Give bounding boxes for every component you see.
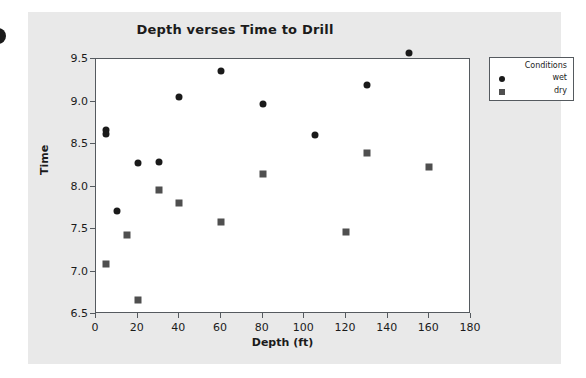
x-tick-label: 180 [460,321,481,334]
data-point-dry [363,150,370,157]
data-point-dry [155,186,162,193]
chart-title: Depth verses Time to Drill [0,22,470,37]
data-point-wet [155,158,162,165]
x-axis-label: Depth (ft) [95,336,470,349]
legend-label: dry [554,86,567,95]
square-marker-icon [499,89,505,95]
x-tick-label: 60 [213,321,227,334]
y-tick-label: 7.5 [0,222,88,235]
x-tick-label: 160 [418,321,439,334]
y-tick-label: 9.5 [0,52,88,65]
data-point-dry [176,199,183,206]
y-tick-label: 8.5 [0,137,88,150]
x-tick-mark [345,313,346,318]
x-tick-label: 120 [335,321,356,334]
x-tick-mark [262,313,263,318]
data-point-dry [426,163,433,170]
x-tick-label: 40 [171,321,185,334]
x-tick-mark [470,313,471,318]
data-point-wet [134,159,141,166]
y-tick-label: 7.0 [0,264,88,277]
x-tick-mark [220,313,221,318]
x-tick-mark [387,313,388,318]
data-point-dry [218,219,225,226]
legend-entry: wet [490,72,573,85]
x-tick-mark [303,313,304,318]
data-point-wet [176,94,183,101]
legend-title: Conditions [525,61,567,70]
data-point-dry [134,297,141,304]
data-point-wet [113,208,120,215]
circle-marker-icon [499,76,505,82]
x-tick-mark [178,313,179,318]
y-tick-label: 8.0 [0,179,88,192]
data-point-dry [259,170,266,177]
data-point-wet [103,130,110,137]
data-point-dry [343,228,350,235]
y-tick-label: 6.5 [0,307,88,320]
y-tick-label: 9.0 [0,94,88,107]
data-point-dry [124,231,131,238]
legend-label: wet [552,73,567,82]
data-point-wet [363,81,370,88]
x-tick-mark [95,313,96,318]
screenshot-root: Depth verses Time to Drill Time Depth (f… [0,0,586,378]
data-point-wet [259,101,266,108]
x-tick-label: 0 [92,321,99,334]
data-point-wet [218,67,225,74]
x-tick-mark [137,313,138,318]
x-tick-label: 140 [376,321,397,334]
x-tick-label: 20 [130,321,144,334]
plot-area [95,58,470,313]
data-point-wet [311,131,318,138]
data-point-wet [103,126,110,133]
legend: Conditions wetdry [489,57,574,101]
x-tick-label: 100 [293,321,314,334]
data-point-dry [103,260,110,267]
x-tick-label: 80 [255,321,269,334]
legend-entry: dry [490,85,573,98]
x-tick-mark [428,313,429,318]
